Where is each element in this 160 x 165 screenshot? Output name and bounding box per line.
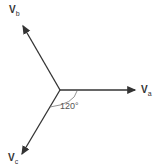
phasor-vc-arrow [22, 90, 60, 154]
phasor-diagram [0, 0, 160, 165]
phasor-vb-arrow [23, 26, 60, 90]
label-vb: Vb [9, 4, 20, 17]
label-vc: Vc [8, 152, 18, 165]
angle-label: 120° [60, 101, 79, 111]
label-va: Va [141, 84, 152, 97]
